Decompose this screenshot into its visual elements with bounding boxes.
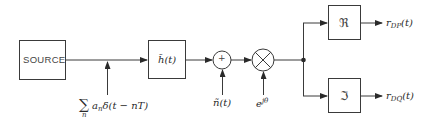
delta-term: δ(t − nT) [102, 100, 148, 111]
summation-index: n [82, 112, 87, 119]
output-dq-subscript: DQ [391, 95, 402, 103]
impulse-expression: anδ(t − nT) [92, 101, 148, 113]
phase-exponent: jθ [262, 97, 268, 105]
output-dp-label: rDP(t) [386, 18, 413, 30]
source-label: SOURCE [23, 55, 65, 65]
adder-symbol: + [218, 54, 226, 63]
filter-label: h̃(t) [158, 55, 176, 65]
output-dp-subscript: DP [391, 22, 401, 30]
imag-part-label: ℑ [340, 90, 348, 102]
real-part-label: ℜ [339, 17, 349, 29]
junction-dot [301, 58, 306, 63]
noise-label: ñ(t) [213, 98, 231, 108]
output-dq-label: rDQ(t) [386, 91, 414, 103]
summation-symbol: ∑ [79, 97, 89, 111]
output-dp-arg: (t) [401, 17, 413, 28]
phase-label: ejθ [256, 98, 268, 109]
output-dq-arg: (t) [402, 90, 414, 101]
